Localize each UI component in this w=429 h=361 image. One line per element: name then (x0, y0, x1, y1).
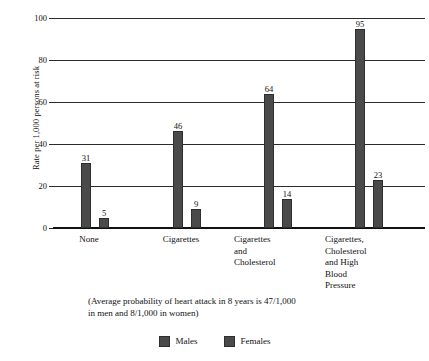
y-tick-label-0: 0 (43, 224, 47, 233)
bar-males-none: 31 (81, 163, 91, 228)
bar-males-cigarettes-cholesterol: 64 (264, 94, 274, 228)
x-category-line: Cholesterol (325, 246, 423, 258)
bar-value-females-cigarettes-cholesterol: 14 (283, 190, 292, 199)
y-tickmark-100 (49, 18, 53, 19)
gridline-60 (53, 102, 425, 103)
y-tick-label-60: 60 (39, 98, 48, 107)
bar-value-females-cigarettes: 9 (194, 200, 198, 209)
y-tickmark-40 (49, 144, 53, 145)
bar-females-none: 5 (99, 218, 109, 229)
legend-item-males: Males (159, 336, 198, 347)
bar-value-females-cigarettes-cholesterol-bp: 23 (374, 171, 383, 180)
chart-caption: (Average probability of heart attack in … (88, 296, 388, 319)
y-tick-label-20: 20 (39, 182, 48, 191)
bar-value-males-cigarettes-cholesterol-bp: 95 (356, 20, 365, 29)
bar-males-cigarettes: 46 (173, 131, 183, 228)
chart-legend: Males Females (0, 336, 429, 347)
bar-females-cigarettes-cholesterol: 14 (282, 199, 292, 228)
bar-value-males-cigarettes: 46 (174, 122, 183, 131)
bar-value-males-none: 31 (82, 154, 91, 163)
legend-item-females: Females (224, 336, 271, 347)
bar-value-males-cigarettes-cholesterol: 64 (265, 85, 274, 94)
bar-females-cigarettes-cholesterol-bp: 23 (373, 180, 383, 228)
x-category-line: Cigarettes, (325, 234, 423, 246)
bar-value-females-none: 5 (102, 209, 106, 218)
x-category-line: Blood (325, 269, 423, 281)
x-category-line: Pressure (325, 280, 423, 292)
y-tick-label-100: 100 (34, 14, 47, 23)
legend-swatch-males (159, 336, 170, 347)
gridline-20 (53, 186, 425, 187)
gridline-100 (53, 18, 425, 19)
legend-label-males: Males (176, 337, 198, 346)
legend-label-females: Females (241, 337, 271, 346)
bar-females-cigarettes: 9 (191, 209, 201, 228)
x-category-line: and High (325, 257, 423, 269)
legend-swatch-females (224, 336, 235, 347)
y-tick-label-40: 40 (39, 140, 48, 149)
y-tickmark-80 (49, 60, 53, 61)
y-tickmark-20 (49, 186, 53, 187)
gridline-80 (53, 60, 425, 61)
bar-chart: Rate per 1,000 persons at risk 100 80 60… (0, 0, 429, 361)
bar-males-cigarettes-cholesterol-bp: 95 (355, 29, 365, 229)
y-tickmark-0 (49, 228, 53, 229)
caption-line-1: (Average probability of heart attack in … (88, 296, 388, 308)
x-category-label-cigarettes-cholesterol-bp: Cigarettes, Cholesterol and High Blood P… (303, 234, 423, 292)
plot-area: 100 80 60 40 20 0 31 5 46 9 (53, 18, 425, 228)
gridline-40 (53, 144, 425, 145)
caption-line-2: in men and 8/1,000 in women) (88, 308, 388, 320)
y-tickmark-60 (49, 102, 53, 103)
y-tick-label-80: 80 (39, 56, 48, 65)
